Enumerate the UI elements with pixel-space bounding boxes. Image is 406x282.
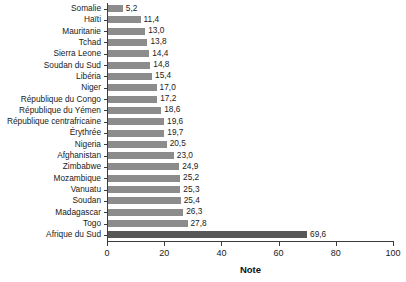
bar-value-label: 13,8 <box>147 36 166 46</box>
x-axis-tick-label: 100 <box>373 248 406 258</box>
category-label: Sierra Leone <box>0 48 104 59</box>
bar <box>108 152 174 159</box>
bar <box>108 16 141 23</box>
bar <box>108 231 307 238</box>
category-label: Mauritanie <box>0 26 104 37</box>
category-label: Madagascar <box>0 207 104 218</box>
bar <box>108 96 157 103</box>
bar-value-label: 27,8 <box>188 218 207 228</box>
y-axis-tick <box>104 110 107 111</box>
bar <box>108 50 149 57</box>
bar <box>108 5 123 12</box>
bar <box>108 220 188 227</box>
bar <box>108 163 179 170</box>
x-axis-tick <box>221 242 222 246</box>
y-axis-tick <box>104 20 107 21</box>
bar-value-label: 24,9 <box>179 161 198 171</box>
bar-chart: SomalieHaïtiMauritanieTchadSierra LeoneS… <box>0 0 406 282</box>
category-label: République du Congo <box>0 94 104 105</box>
bar-value-label: 19,7 <box>164 127 183 137</box>
x-axis-tick-label: 40 <box>201 248 241 258</box>
category-label: Vanuatu <box>0 184 104 195</box>
bar <box>108 186 180 193</box>
bar-value-label: 14,8 <box>150 59 169 69</box>
bar-value-label: 11,4 <box>141 14 160 24</box>
x-axis-tick <box>393 242 394 246</box>
y-axis-tick <box>104 9 107 10</box>
bar <box>108 197 181 204</box>
bar-value-label: 69,6 <box>307 229 326 239</box>
bar <box>108 28 145 35</box>
bar-value-label: 19,6 <box>164 116 183 126</box>
category-label: Tchad <box>0 37 104 48</box>
bar-value-label: 23,0 <box>174 150 193 160</box>
bar <box>108 62 150 69</box>
y-axis-tick <box>104 133 107 134</box>
y-axis-tick <box>104 99 107 100</box>
y-axis-tick <box>104 65 107 66</box>
y-axis-tick <box>104 235 107 236</box>
x-axis-tick <box>336 242 337 246</box>
bar-value-label: 15,4 <box>152 70 171 80</box>
x-axis-tick-label: 60 <box>259 248 299 258</box>
x-axis-tick-label: 0 <box>87 248 127 258</box>
bar <box>108 73 152 80</box>
x-axis-tick-label: 80 <box>316 248 356 258</box>
category-label: République du Yémen <box>0 105 104 116</box>
y-axis-tick <box>104 54 107 55</box>
bar-value-label: 14,4 <box>149 48 168 58</box>
y-axis-tick <box>104 212 107 213</box>
bar <box>108 107 161 114</box>
x-axis-tick <box>107 242 108 246</box>
y-axis-tick <box>104 42 107 43</box>
bar-value-label: 25,4 <box>181 195 200 205</box>
bar <box>108 130 164 137</box>
bar-value-label: 17,2 <box>157 93 176 103</box>
bar-value-label: 25,3 <box>180 184 199 194</box>
bar <box>108 209 183 216</box>
category-axis-labels: SomalieHaïtiMauritanieTchadSierra LeoneS… <box>0 3 104 241</box>
y-axis-tick <box>104 122 107 123</box>
category-label: Haïti <box>0 14 104 25</box>
bar-value-label: 26,3 <box>183 206 202 216</box>
y-axis-tick <box>104 178 107 179</box>
category-label: Afghanistan <box>0 150 104 161</box>
x-axis-line <box>107 241 394 242</box>
category-label: République centrafricaine <box>0 116 104 127</box>
category-label: Soudan <box>0 195 104 206</box>
bar <box>108 175 180 182</box>
y-axis-tick <box>104 144 107 145</box>
x-axis-tick-label: 20 <box>144 248 184 258</box>
y-axis-tick <box>104 31 107 32</box>
bar <box>108 39 147 46</box>
y-axis-tick <box>104 224 107 225</box>
category-label: Libéria <box>0 71 104 82</box>
plot-area: 5,211,413,013,814,414,815,417,017,218,61… <box>107 3 393 241</box>
category-label: Zimbabwe <box>0 161 104 172</box>
y-axis-tick <box>104 201 107 202</box>
bar <box>108 141 167 148</box>
bar-value-label: 5,2 <box>123 3 138 13</box>
x-axis-tick <box>164 242 165 246</box>
category-label: Afrique du Sud <box>0 229 104 240</box>
category-label: Mozambique <box>0 173 104 184</box>
category-label: Soudan du Sud <box>0 60 104 71</box>
category-label: Niger <box>0 82 104 93</box>
y-axis-tick <box>104 156 107 157</box>
bar <box>108 84 157 91</box>
category-label: Somalie <box>0 3 104 14</box>
bar-value-label: 17,0 <box>157 82 176 92</box>
category-label: Togo <box>0 218 104 229</box>
y-axis-tick <box>104 76 107 77</box>
category-label: Nigeria <box>0 139 104 150</box>
category-label: Érythrée <box>0 127 104 138</box>
y-axis-tick <box>104 190 107 191</box>
y-axis-tick <box>104 88 107 89</box>
x-axis-tick <box>279 242 280 246</box>
y-axis-tick <box>104 167 107 168</box>
bar-value-label: 18,6 <box>161 104 180 114</box>
bar-value-label: 20,5 <box>167 138 186 148</box>
bar-value-label: 13,0 <box>145 25 164 35</box>
x-axis-title: Note <box>107 264 394 275</box>
bar <box>108 118 164 125</box>
